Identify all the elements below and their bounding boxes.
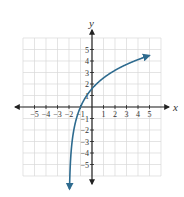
x-tick-label: −2 — [65, 110, 74, 119]
x-tick-label: 2 — [113, 110, 117, 119]
x-tick-label: 3 — [125, 110, 129, 119]
x-tick-label: 1 — [102, 110, 106, 119]
x-tick-label: −4 — [42, 110, 51, 119]
y-tick-label: 4 — [85, 57, 89, 66]
x-tick-label: 4 — [136, 110, 140, 119]
y-tick-label: −4 — [80, 149, 89, 158]
x-tick-label: −5 — [30, 110, 39, 119]
y-tick-label: 2 — [85, 80, 89, 89]
y-tick-label: 5 — [85, 46, 89, 55]
y-tick-label: 3 — [85, 69, 89, 78]
y-tick-label: −2 — [80, 126, 89, 135]
y-tick-label: −5 — [80, 161, 89, 170]
y-tick-label: −1 — [80, 115, 89, 124]
y-tick-label: −3 — [80, 138, 89, 147]
y-axis-label: y — [88, 17, 94, 29]
x-axis-label: x — [172, 101, 178, 113]
x-tick-label: −3 — [53, 110, 62, 119]
x-tick-label: 5 — [148, 110, 152, 119]
log-function-graph: xy−5−4−3−2−112345−5−4−3−2−112345 — [0, 0, 184, 197]
